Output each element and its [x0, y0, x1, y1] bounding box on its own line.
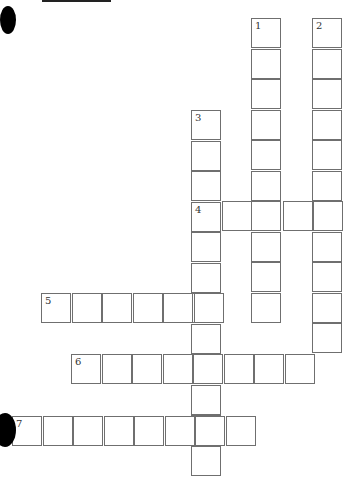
grid-cell[interactable] — [312, 232, 342, 262]
grid-cell[interactable]: 5 — [41, 293, 71, 323]
grid-cell[interactable]: 4 — [191, 202, 221, 232]
clue-number: 4 — [195, 204, 201, 215]
grid-cell[interactable] — [312, 262, 342, 292]
grid-cell[interactable]: 7 — [12, 416, 42, 446]
clue-number: 6 — [75, 356, 81, 367]
crossword-board: 1234567 — [0, 0, 357, 490]
grid-cell[interactable] — [251, 140, 281, 170]
grid-cell[interactable] — [251, 171, 281, 201]
grid-cell[interactable] — [283, 201, 313, 231]
header-underline — [42, 0, 111, 2]
clue-number: 5 — [45, 295, 51, 306]
grid-cell[interactable] — [312, 293, 342, 323]
grid-cell[interactable] — [193, 354, 223, 384]
grid-cell[interactable]: 3 — [191, 110, 221, 140]
grid-cell[interactable] — [104, 416, 134, 446]
grid-cell[interactable] — [251, 79, 281, 109]
clue-number: 1 — [255, 20, 261, 31]
grid-cell[interactable]: 1 — [251, 18, 281, 48]
grid-cell[interactable] — [191, 141, 221, 171]
grid-cell[interactable] — [312, 323, 342, 353]
grid-cell[interactable] — [134, 416, 164, 446]
grid-cell[interactable] — [251, 201, 281, 231]
grid-cell[interactable] — [73, 416, 103, 446]
grid-cell[interactable] — [254, 354, 284, 384]
grid-cell[interactable] — [133, 293, 163, 323]
grid-cell[interactable] — [224, 354, 254, 384]
grid-cell[interactable] — [312, 79, 342, 109]
grid-cell[interactable] — [312, 49, 342, 79]
grid-cell[interactable] — [163, 354, 193, 384]
grid-cell[interactable] — [251, 262, 281, 292]
grid-cell[interactable] — [132, 354, 162, 384]
clue-number: 7 — [16, 418, 22, 429]
grid-cell[interactable]: 6 — [71, 354, 101, 384]
grid-cell[interactable] — [312, 110, 342, 140]
grid-cell[interactable] — [191, 263, 221, 293]
grid-cell[interactable] — [312, 140, 342, 170]
grid-cell[interactable] — [251, 49, 281, 79]
grid-cell[interactable] — [222, 201, 252, 231]
grid-cell[interactable] — [102, 293, 132, 323]
grid-cell[interactable] — [226, 416, 256, 446]
grid-cell[interactable] — [312, 171, 342, 201]
grid-cell[interactable] — [191, 385, 221, 415]
grid-cell[interactable] — [251, 293, 281, 323]
grid-cell[interactable] — [191, 324, 221, 354]
grid-cell[interactable] — [191, 232, 221, 262]
clue-number: 2 — [316, 20, 322, 31]
grid-cell[interactable] — [43, 416, 73, 446]
grid-cell[interactable]: 2 — [312, 18, 342, 48]
grid-cell[interactable] — [194, 293, 224, 323]
grid-cell[interactable] — [285, 354, 315, 384]
grid-cell[interactable] — [72, 293, 102, 323]
grid-cell[interactable] — [251, 232, 281, 262]
grid-cell[interactable] — [165, 416, 195, 446]
clue-number: 3 — [195, 112, 201, 123]
grid-cell[interactable] — [191, 171, 221, 201]
grid-cell[interactable] — [195, 416, 225, 446]
grid-cell[interactable] — [102, 354, 132, 384]
punch-hole — [0, 6, 16, 34]
grid-cell[interactable] — [163, 293, 193, 323]
grid-cell[interactable] — [313, 201, 343, 231]
grid-cell[interactable] — [191, 446, 221, 476]
grid-cell[interactable] — [251, 110, 281, 140]
